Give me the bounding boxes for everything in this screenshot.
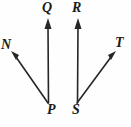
ray-pq-shaft <box>48 26 49 103</box>
ray-sr-shaft <box>78 26 79 103</box>
geometry-diagram: N Q R T P S <box>0 0 131 127</box>
point-label-t: T <box>115 36 124 50</box>
vertex-label-p: P <box>47 103 56 117</box>
ray-pq-arrowhead <box>45 18 52 29</box>
ray-pn <box>11 51 48 103</box>
ray-sr-arrowhead <box>75 18 82 29</box>
ray-pn-shaft <box>16 57 48 103</box>
ray-pq <box>45 18 52 103</box>
point-label-r: R <box>72 1 81 15</box>
point-label-q: Q <box>42 1 52 15</box>
vertex-label-s: S <box>72 103 80 117</box>
ray-st-shaft <box>77 57 111 103</box>
ray-sr <box>75 18 82 103</box>
rays-canvas <box>0 0 131 127</box>
ray-st <box>77 51 116 103</box>
point-label-n: N <box>1 38 11 52</box>
